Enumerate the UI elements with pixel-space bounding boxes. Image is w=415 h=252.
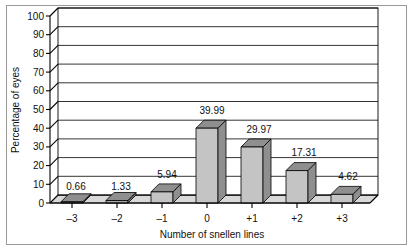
y-tick-label: 30 (33, 141, 45, 152)
data-label-plus2: 17.31 (291, 147, 316, 158)
figure-container: 100 90 80 70 60 50 40 30 20 10 0 Percent… (0, 0, 415, 252)
x-tick-labels: –3 –2 –1 0 +1 +2 +3 (66, 213, 348, 224)
bar-plus2[interactable] (286, 163, 316, 203)
y-tick-label: 90 (33, 29, 45, 40)
data-label-minus3: 0.66 (66, 181, 86, 192)
y-axis-title: Percentage of eyes (10, 67, 21, 153)
y-tick-label: 80 (33, 48, 45, 59)
y-tick-label: 100 (27, 11, 44, 22)
x-tick-label: +1 (246, 213, 258, 224)
y-tick-label: 40 (33, 123, 45, 134)
bar-chart: 100 90 80 70 60 50 40 30 20 10 0 Percent… (0, 0, 415, 252)
y-tick-label: 20 (33, 160, 45, 171)
data-label-minus2: 1.33 (111, 181, 131, 192)
x-tick-label: –2 (111, 213, 123, 224)
x-tick-label: +3 (336, 213, 348, 224)
x-axis-title: Number of snellen lines (160, 229, 265, 240)
x-tick-label: +2 (291, 213, 303, 224)
y-axis (46, 8, 58, 203)
y-tick-label: 50 (33, 104, 45, 115)
y-tick-label: 0 (38, 198, 44, 209)
x-tick-label: 0 (204, 213, 210, 224)
x-tick-label: –1 (156, 213, 168, 224)
y-tick-label: 70 (33, 67, 45, 78)
data-label-zero: 39.99 (199, 105, 224, 116)
y-tick-label: 60 (33, 85, 45, 96)
data-label-plus1: 29.97 (246, 124, 271, 135)
y-tick-labels: 100 90 80 70 60 50 40 30 20 10 0 (27, 11, 44, 209)
data-label-plus3: 4.62 (338, 171, 358, 182)
bar-plus1[interactable] (241, 139, 271, 203)
x-tick-label: –3 (66, 213, 78, 224)
bar-zero[interactable] (196, 120, 226, 203)
data-label-minus1: 5.94 (157, 169, 177, 180)
y-tick-label: 10 (33, 179, 45, 190)
